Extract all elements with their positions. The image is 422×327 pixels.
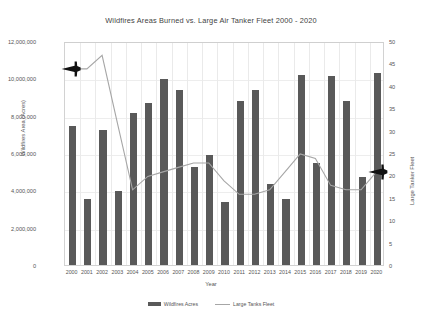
large-tanker-fleet-line: [72, 55, 377, 194]
airplane-icon-start: [62, 61, 81, 76]
legend-label-wildfires-acres: Wildfires Acres: [164, 301, 198, 307]
legend-label-large-tanks-fleet: Large Tanks Fleet: [233, 301, 274, 307]
chart-legend: Wildfires Acres Large Tanks Fleet: [0, 301, 422, 307]
legend-item-large-tanks-fleet: Large Tanks Fleet: [215, 301, 274, 307]
bar-swatch-icon: [148, 302, 161, 306]
line-swatch-icon: [215, 304, 230, 305]
chart-container: Wildfires Areas Burned vs. Large Air Tan…: [0, 0, 422, 327]
line-series-overlay: [0, 0, 422, 327]
legend-item-wildfires-acres: Wildfires Acres: [148, 301, 198, 307]
